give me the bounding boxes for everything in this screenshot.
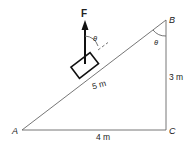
angle-label-b: θ <box>154 38 158 47</box>
side-label-hypotenuse: 5 m <box>91 78 107 91</box>
vertex-label-c: C <box>169 126 176 136</box>
side-label-vertical: 3 m <box>169 72 183 82</box>
diagram-canvas: F θ θ A B C 5 m 3 m 4 m <box>0 0 194 150</box>
angle-label-force: θ <box>93 34 97 43</box>
force-arrow-head <box>82 20 89 30</box>
vertex-label-b: B <box>169 15 175 25</box>
slope-reference-dash <box>98 43 108 51</box>
vertex-label-a: A <box>11 126 18 136</box>
angle-arc-b <box>153 30 166 36</box>
force-label: F <box>81 8 87 19</box>
side-label-base: 4 m <box>96 132 110 142</box>
